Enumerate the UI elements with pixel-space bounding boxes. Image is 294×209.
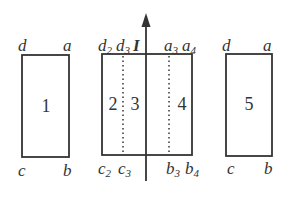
- loop-4-label: 4: [178, 94, 187, 114]
- loop-5-corner-d: d: [222, 36, 231, 55]
- corner-c2: c2: [98, 159, 112, 179]
- corner-c3: c3: [118, 159, 132, 179]
- corner-b4: b4: [185, 159, 200, 179]
- loop-5-corner-a: a: [263, 36, 272, 55]
- arrow-up-icon: [142, 13, 151, 27]
- corner-d3: d3: [116, 36, 131, 56]
- loop-1-corner-d: d: [18, 36, 27, 55]
- current-label: I: [132, 36, 141, 55]
- loop-5-corner-b: b: [264, 159, 273, 178]
- corner-a4: a4: [182, 36, 197, 56]
- loop-1-corner-a: a: [63, 36, 72, 55]
- loop-1-corner-c: c: [18, 161, 26, 180]
- diagram-svg: 1 d a c b 2 3 4 I d2 d3 a3 a4 c2 c3 b3 b…: [0, 0, 294, 209]
- corner-d2: d2: [98, 36, 113, 56]
- corner-b3: b3: [166, 159, 181, 179]
- diagram-canvas: 1 d a c b 2 3 4 I d2 d3 a3 a4 c2 c3 b3 b…: [0, 0, 294, 209]
- loop-3-label: 3: [131, 94, 140, 114]
- loop-5-label: 5: [245, 94, 254, 114]
- corner-a3: a3: [164, 36, 179, 56]
- loop-1-label: 1: [42, 96, 51, 116]
- loop-1-corner-b: b: [63, 161, 72, 180]
- loop-5-corner-c: c: [227, 159, 235, 178]
- loop-2-label: 2: [109, 94, 118, 114]
